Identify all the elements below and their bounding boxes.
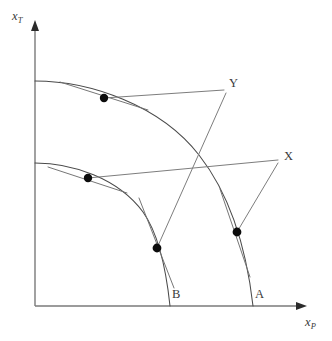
y-axis-arrowhead [31, 20, 39, 31]
x-axis-label-subscript: P [311, 321, 316, 331]
y-axis-label-base: x [12, 9, 18, 23]
ppf-figure: xT xP Y X B A [0, 0, 332, 341]
curve-b-label: B [172, 288, 180, 301]
axes-group [31, 20, 307, 310]
price-line-y-upper-segment [104, 90, 224, 98]
x-axis-arrowhead [296, 302, 307, 310]
point-outer-upper [100, 94, 108, 102]
point-a [233, 228, 242, 237]
price-line-y-label: Y [229, 77, 238, 90]
price-line-x-label: X [284, 150, 293, 163]
tangent-lines-group [48, 82, 250, 288]
y-axis-label-subscript: T [18, 15, 23, 25]
x-axis-label-base: x [305, 315, 311, 329]
outer-ppf-curve [35, 81, 253, 306]
x-axis-label: xP [305, 316, 316, 329]
y-axis-label: xT [12, 10, 22, 23]
point-markers-group [84, 94, 242, 253]
price-lines-group [88, 90, 278, 248]
point-inner-upper [84, 174, 92, 182]
price-line-x-lower-segment [237, 163, 278, 232]
ppf-curves-group [35, 81, 253, 306]
tangent-inner-lower-line [139, 198, 174, 288]
point-b [153, 244, 162, 253]
curve-a-label: A [255, 288, 264, 301]
ppf-svg-canvas [0, 0, 332, 341]
price-line-x-upper-segment [88, 160, 278, 178]
